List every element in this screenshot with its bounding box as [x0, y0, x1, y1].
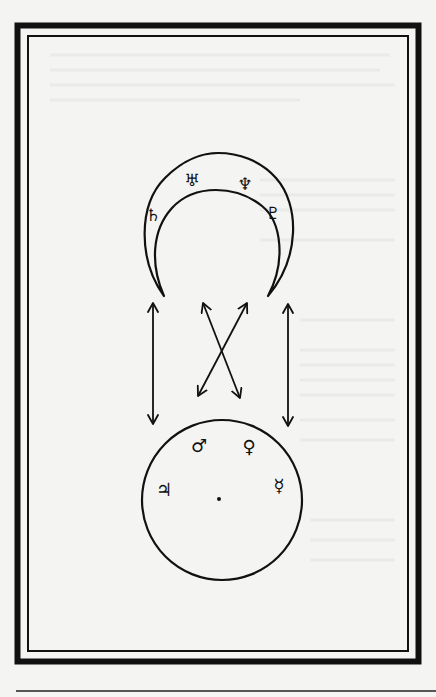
diagonal-double-arrow-down-left [198, 303, 247, 396]
crescent: ♄ ♅ ♆ ♇ [145, 153, 293, 296]
connectors [153, 303, 288, 426]
jupiter-symbol: ♃ [156, 479, 172, 500]
crescent-shape [145, 153, 293, 296]
circle-figure: ♃ ♂ ♀ ☿ [142, 420, 302, 580]
mars-symbol: ♂ [191, 435, 207, 456]
diagram-canvas: ♄ ♅ ♆ ♇ ♃ ♂ ♀ ☿ [0, 0, 436, 697]
center-point [217, 497, 221, 501]
pluto-symbol: ♇ [265, 203, 280, 223]
mercury-symbol: ☿ [273, 475, 284, 496]
venus-symbol: ♀ [242, 436, 255, 457]
uranus-symbol: ♅ [184, 170, 199, 190]
saturn-symbol: ♄ [145, 205, 160, 225]
ghost-text-texture [50, 55, 395, 560]
circle-shape [142, 420, 302, 580]
neptune-symbol: ♆ [237, 174, 252, 194]
